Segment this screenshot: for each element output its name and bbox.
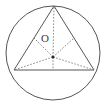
dotted-center-to-right-side-midpoint <box>53 38 74 57</box>
center-point-dot <box>51 55 54 58</box>
center-point-label: O <box>41 33 49 44</box>
geometry-canvas <box>0 0 107 106</box>
dotted-center-to-apex <box>53 6 54 57</box>
dotted-center-to-base-right <box>53 57 94 70</box>
geometry-figure: O <box>0 0 107 106</box>
dotted-center-to-base-left <box>14 57 53 70</box>
